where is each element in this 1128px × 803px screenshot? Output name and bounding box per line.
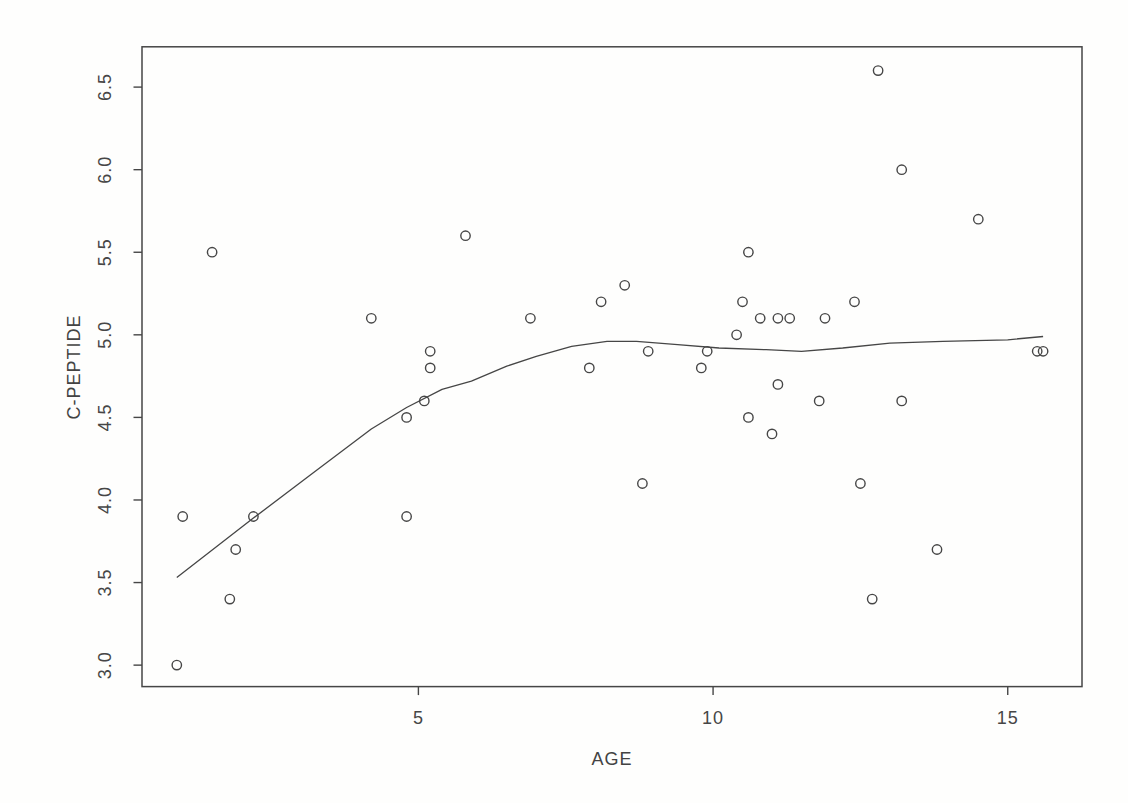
data-point <box>225 594 234 603</box>
data-point <box>868 594 877 603</box>
data-point <box>738 297 747 306</box>
data-point <box>773 314 782 323</box>
y-tick-label: 5.0 <box>95 321 115 349</box>
data-point <box>620 281 629 290</box>
data-point <box>697 363 706 372</box>
y-tick-label: 3.5 <box>95 569 115 597</box>
data-point <box>732 330 741 339</box>
data-point <box>585 363 594 372</box>
data-point <box>785 314 794 323</box>
chart-canvas: 510153.03.54.04.55.05.56.06.5 <box>0 0 1128 803</box>
y-tick-label: 4.0 <box>95 486 115 514</box>
plot-box <box>142 47 1082 687</box>
data-point <box>932 545 941 554</box>
smooth-fit-line <box>177 337 1043 578</box>
y-tick-label: 6.0 <box>95 156 115 184</box>
data-point <box>249 512 258 521</box>
data-point <box>815 396 824 405</box>
data-point <box>1038 347 1047 356</box>
data-point <box>402 512 411 521</box>
data-point <box>820 314 829 323</box>
y-tick-label: 3.0 <box>95 651 115 679</box>
data-point <box>596 297 605 306</box>
data-point <box>178 512 187 521</box>
data-point <box>744 248 753 257</box>
scatter-plot: 510153.03.54.04.55.05.56.06.5 AGE C-PEPT… <box>0 0 1128 803</box>
data-point <box>897 165 906 174</box>
data-point <box>420 396 429 405</box>
y-axis-title: C-PEPTIDE <box>64 267 84 467</box>
data-point <box>172 660 181 669</box>
y-tick-label: 4.5 <box>95 403 115 431</box>
x-tick-label: 5 <box>413 708 424 728</box>
data-point <box>426 347 435 356</box>
data-point <box>644 347 653 356</box>
data-point <box>756 314 765 323</box>
data-point <box>461 231 470 240</box>
data-point <box>426 363 435 372</box>
x-axis-title: AGE <box>537 749 687 770</box>
data-point <box>850 297 859 306</box>
data-point <box>367 314 376 323</box>
data-point <box>703 347 712 356</box>
y-tick-label: 5.5 <box>95 238 115 266</box>
data-point <box>767 429 776 438</box>
x-tick-label: 10 <box>702 708 724 728</box>
data-point <box>526 314 535 323</box>
data-point <box>638 479 647 488</box>
data-point <box>402 413 411 422</box>
y-tick-label: 6.5 <box>95 73 115 101</box>
scanned-page: 510153.03.54.04.55.05.56.06.5 AGE C-PEPT… <box>0 0 1128 803</box>
data-point <box>231 545 240 554</box>
data-point <box>744 413 753 422</box>
data-point <box>897 396 906 405</box>
data-point <box>773 380 782 389</box>
data-point <box>207 248 216 257</box>
data-point <box>856 479 865 488</box>
data-point <box>873 66 882 75</box>
x-tick-label: 15 <box>997 708 1019 728</box>
data-point <box>974 215 983 224</box>
